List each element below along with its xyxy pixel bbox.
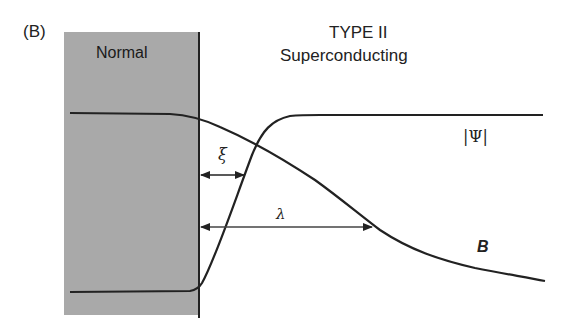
coherence-length-label: ξ — [218, 145, 227, 164]
diagram-canvas — [0, 0, 577, 330]
magnetic-field-label: B — [477, 238, 489, 256]
penetration-depth-label: λ — [276, 205, 286, 223]
order-parameter-label: |Ψ| — [463, 127, 488, 146]
